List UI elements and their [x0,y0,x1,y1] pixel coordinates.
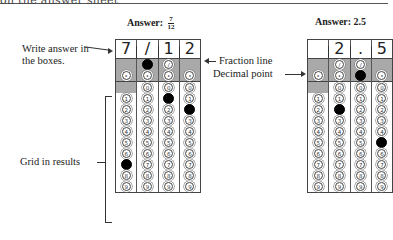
digit-bubble-1[interactable]: 1 [143,94,152,103]
digit-bubble-6[interactable]: 6 [377,149,386,158]
digit-bubble-5[interactable]: 5 [356,138,365,147]
digit-bubble-5[interactable]: 5 [314,138,323,147]
digit-bubble-8[interactable]: 8 [335,171,344,180]
decimal-bubble[interactable]: • [143,71,152,80]
decimal-bubble[interactable] [355,70,366,81]
digit-bubble-5[interactable]: 5 [164,138,173,147]
digit-bubble-9[interactable]: 9 [335,182,344,191]
digit-bubble-0[interactable]: 0 [143,83,152,92]
answer-box[interactable]: 5 [371,40,392,58]
answer-box[interactable]: 2 [179,40,200,58]
digit-bubble-5[interactable]: 5 [335,138,344,147]
digit-bubble-8[interactable]: 8 [377,171,386,180]
decimal-bubble[interactable]: • [185,71,194,80]
decimal-bubble[interactable]: • [122,71,131,80]
digit-bubble-8[interactable]: 8 [314,171,323,180]
digit-bubble-0[interactable]: 0 [185,83,194,92]
digit-bubble-6[interactable]: 6 [335,149,344,158]
digit-bubble-8[interactable]: 8 [143,171,152,180]
answer-box[interactable]: 7 [116,40,136,58]
answer-box[interactable]: 1 [158,40,179,58]
digit-bubble-6[interactable]: 6 [122,149,131,158]
digit-bubble-7[interactable] [121,159,132,170]
digit-bubble-1[interactable]: 1 [314,94,323,103]
digit-bubble-6[interactable]: 6 [143,149,152,158]
digit-bubble-7[interactable]: 7 [356,160,365,169]
digit-bubble-2[interactable]: 2 [356,105,365,114]
digit-bubble-4[interactable]: 4 [185,127,194,136]
digit-bubble-5[interactable] [376,137,387,148]
digit-bubble-5[interactable]: 5 [185,138,194,147]
digit-bubble-2[interactable]: 2 [143,105,152,114]
digit-bubble-0[interactable]: 0 [335,83,344,92]
digit-bubble-9[interactable]: 9 [122,182,131,191]
digit-bubble-2[interactable] [184,104,195,115]
answer-box[interactable]: / [136,40,157,58]
answer-box[interactable] [308,40,328,58]
digit-bubble-4[interactable]: 4 [356,127,365,136]
digit-bubble-1[interactable]: 1 [185,94,194,103]
decimal-bubble[interactable]: • [377,71,386,80]
digit-bubble-7[interactable]: 7 [185,160,194,169]
digit-bubble-6[interactable]: 6 [164,149,173,158]
fraction-bubble-filled[interactable] [142,59,153,70]
digit-bubble-1[interactable] [163,93,174,104]
digit-bubble-4[interactable]: 4 [314,127,323,136]
fraction-bubble[interactable]: / [335,60,344,69]
digit-bubble-8[interactable]: 8 [122,171,131,180]
digit-bubble-2[interactable]: 2 [122,105,131,114]
digit-bubble-4[interactable]: 4 [143,127,152,136]
digit-bubble-7[interactable]: 7 [314,160,323,169]
digit-bubble-3[interactable]: 3 [185,116,194,125]
answer-box[interactable]: . [350,40,371,58]
digit-bubble-8[interactable]: 8 [164,171,173,180]
digit-bubble-0[interactable]: 0 [377,83,386,92]
digit-bubble-4[interactable]: 4 [164,127,173,136]
digit-bubble-2[interactable]: 2 [314,105,323,114]
digit-bubble-2[interactable]: 2 [164,105,173,114]
digit-row-cell: 7 [329,159,349,170]
digit-bubble-6[interactable]: 6 [314,149,323,158]
digit-bubble-3[interactable]: 3 [164,116,173,125]
digit-bubble-0[interactable]: 0 [356,83,365,92]
digit-bubble-1[interactable]: 1 [122,94,131,103]
digit-bubble-4[interactable]: 4 [122,127,131,136]
digit-bubble-7[interactable]: 7 [164,160,173,169]
digit-bubble-9[interactable]: 9 [185,182,194,191]
digit-bubble-6[interactable]: 6 [356,149,365,158]
digit-bubble-5[interactable]: 5 [122,138,131,147]
digit-bubble-1[interactable]: 1 [335,94,344,103]
fraction-bubble[interactable]: / [356,60,365,69]
digit-bubble-3[interactable]: 3 [122,116,131,125]
decimal-bubble[interactable]: • [164,71,173,80]
digit-bubble-4[interactable]: 4 [377,127,386,136]
answer-box[interactable]: 2 [328,40,349,58]
digit-bubble-7[interactable]: 7 [377,160,386,169]
digit-bubble-1[interactable]: 1 [356,94,365,103]
digit-bubble-9[interactable]: 9 [356,182,365,191]
digit-bubble-3[interactable]: 3 [314,116,323,125]
decimal-row-cell: • [308,70,328,81]
digit-bubble-2[interactable] [334,104,345,115]
digit-bubble-9[interactable]: 9 [377,182,386,191]
decimal-bubble[interactable]: • [314,71,323,80]
digit-bubble-6[interactable]: 6 [185,149,194,158]
fraction-bubble[interactable]: / [164,60,173,69]
decimal-bubble[interactable]: • [335,71,344,80]
digit-bubble-3[interactable]: 3 [377,116,386,125]
digit-bubble-7[interactable]: 7 [335,160,344,169]
digit-bubble-8[interactable]: 8 [356,171,365,180]
digit-bubble-0[interactable]: 0 [164,83,173,92]
digit-bubble-3[interactable]: 3 [356,116,365,125]
digit-bubble-4[interactable]: 4 [335,127,344,136]
digit-bubble-1[interactable]: 1 [377,94,386,103]
digit-bubble-8[interactable]: 8 [185,171,194,180]
digit-bubble-7[interactable]: 7 [143,160,152,169]
digit-bubble-9[interactable]: 9 [143,182,152,191]
digit-bubble-5[interactable]: 5 [143,138,152,147]
digit-bubble-9[interactable]: 9 [314,182,323,191]
digit-bubble-2[interactable]: 2 [377,105,386,114]
digit-bubble-3[interactable]: 3 [335,116,344,125]
digit-bubble-9[interactable]: 9 [164,182,173,191]
digit-bubble-3[interactable]: 3 [143,116,152,125]
